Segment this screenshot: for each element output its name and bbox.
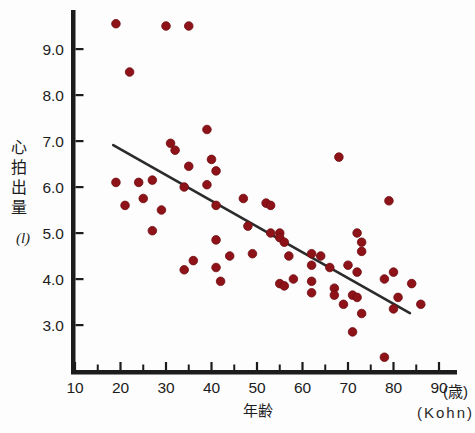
x-tick-label: 50: [248, 379, 266, 396]
x-tick-label: 20: [112, 379, 130, 396]
x-axis-spine: [71, 370, 457, 375]
data-point: [157, 206, 166, 215]
data-point: [407, 279, 416, 288]
y-tick: [76, 48, 84, 50]
y-tick: [76, 278, 84, 280]
data-point: [357, 309, 366, 318]
data-point: [389, 305, 398, 314]
data-point: [125, 68, 134, 77]
data-point: [225, 252, 234, 261]
data-point: [112, 178, 121, 187]
data-point: [266, 201, 275, 210]
data-point: [266, 229, 275, 238]
data-point: [212, 201, 221, 210]
data-point: [357, 238, 366, 247]
data-point: [216, 277, 225, 286]
x-tick-label: 80: [385, 379, 403, 396]
x-tick: [301, 362, 303, 370]
data-point: [353, 229, 362, 238]
data-point: [212, 263, 221, 272]
data-point: [248, 249, 257, 258]
y-axis-unit: (l): [2, 230, 44, 247]
x-tick-label: 40: [203, 379, 221, 396]
x-tick: [256, 362, 258, 370]
y-axis-label: 心拍出量: [9, 139, 25, 219]
x-tick: [438, 362, 440, 370]
data-point: [394, 293, 403, 302]
data-point: [148, 226, 157, 235]
x-tick-label: 10: [66, 379, 84, 396]
x-minor-tick: [279, 365, 281, 371]
data-point: [184, 22, 193, 31]
x-minor-tick: [188, 365, 190, 371]
x-minor-tick: [324, 365, 326, 371]
y-tick: [76, 232, 84, 234]
data-point: [207, 155, 216, 164]
data-point: [389, 268, 398, 277]
x-tick: [347, 362, 349, 370]
data-point: [307, 261, 316, 270]
data-point: [212, 236, 221, 245]
x-minor-tick: [370, 365, 372, 371]
data-point: [121, 201, 130, 210]
data-point: [189, 256, 198, 265]
x-minor-tick: [233, 365, 235, 371]
x-axis-unit: (歳): [443, 380, 468, 401]
data-point: [307, 277, 316, 286]
data-point: [148, 176, 157, 185]
x-minor-tick: [142, 365, 144, 371]
y-tick-label: 3.0: [42, 317, 64, 334]
y-tick-label: 8.0: [42, 87, 64, 104]
data-point: [244, 222, 253, 231]
data-point: [180, 266, 189, 275]
x-tick: [210, 362, 212, 370]
data-point: [184, 162, 193, 171]
data-point: [344, 261, 353, 270]
data-point: [289, 275, 298, 284]
data-point: [239, 194, 248, 203]
x-tick: [74, 362, 76, 370]
scatter-figure: 3.04.05.06.07.08.09.0102030405060708090 …: [0, 0, 475, 433]
data-point: [316, 252, 325, 261]
data-point: [380, 275, 389, 284]
data-point: [203, 180, 212, 189]
y-tick: [76, 140, 84, 142]
y-tick-label: 9.0: [42, 41, 64, 58]
data-point: [307, 289, 316, 298]
data-point: [162, 22, 171, 31]
data-point: [385, 197, 394, 206]
data-point: [280, 282, 289, 291]
data-point: [307, 249, 316, 258]
data-point: [280, 238, 289, 247]
data-point: [353, 293, 362, 302]
x-tick-label: 60: [294, 379, 312, 396]
scatter-plot: 3.04.05.06.07.08.09.0102030405060708090: [0, 0, 475, 433]
data-point: [353, 268, 362, 277]
data-point: [285, 252, 294, 261]
x-tick: [392, 362, 394, 370]
x-tick-label: 70: [339, 379, 357, 396]
x-minor-tick: [97, 365, 99, 371]
x-axis-label: 年齢: [227, 399, 289, 420]
x-tick: [165, 362, 167, 370]
x-minor-tick: [415, 365, 417, 371]
data-point: [330, 291, 339, 300]
data-point: [357, 247, 366, 256]
y-tick: [76, 186, 84, 188]
x-tick: [119, 362, 121, 370]
data-point: [134, 178, 143, 187]
data-point: [212, 167, 221, 176]
x-tick-label: 30: [157, 379, 175, 396]
y-tick-label: 6.0: [42, 179, 64, 196]
data-point: [171, 146, 180, 155]
data-point: [417, 300, 426, 309]
data-point: [326, 263, 335, 272]
data-point: [348, 328, 357, 337]
data-point: [335, 153, 344, 162]
data-point: [180, 183, 189, 192]
data-point: [203, 125, 212, 134]
source-citation: (Kohn): [378, 404, 474, 421]
data-point: [339, 300, 348, 309]
y-tick: [76, 324, 84, 326]
regression-line: [113, 145, 410, 313]
